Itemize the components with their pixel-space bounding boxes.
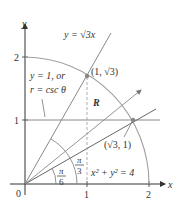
angle-pi3-num: π	[77, 155, 82, 165]
angle-pi3-den: 3	[77, 166, 82, 176]
line-sqrt3x	[25, 33, 111, 184]
origin-label: 0	[16, 188, 21, 199]
region-label: R	[92, 97, 100, 108]
x-tick-label-1: 1	[84, 189, 89, 200]
label-pointer	[42, 99, 45, 117]
point-label-sqrt3-1: (√3, 1)	[104, 139, 131, 151]
angle-arc-pi6	[52, 168, 56, 184]
point-1-sqrt3	[85, 74, 89, 78]
angle-pi6-num: π	[59, 166, 64, 176]
circle-label: x² + y² = 4	[90, 167, 134, 178]
x-axis-label: x	[167, 179, 173, 190]
point-label-1-sqrt3: (1, √3)	[91, 66, 118, 78]
horizontal-line-label-a: y = 1, or	[29, 70, 65, 81]
point-pointer	[124, 122, 132, 137]
x-tick-label-2: 2	[146, 189, 151, 200]
y-tick-label-2: 2	[14, 52, 19, 63]
line-sqrt3x-label: y = √3x	[63, 29, 96, 40]
polar-region-diagram: y x 0 1 2 1 2 y = √3x y = 1, or r = csc …	[0, 0, 184, 206]
horizontal-line-label-b: r = csc θ	[30, 84, 66, 95]
y-tick-label-1: 1	[14, 115, 19, 126]
angle-pi6-den: 6	[59, 177, 64, 187]
point-sqrt3-1	[131, 118, 135, 122]
y-axis-label: y	[21, 18, 27, 29]
